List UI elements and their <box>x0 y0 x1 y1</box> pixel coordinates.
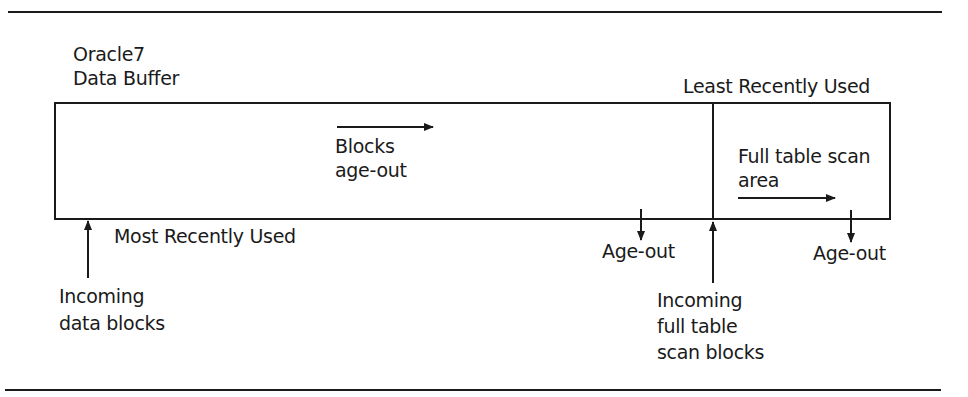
age-out-left-label: Age-out <box>602 239 675 263</box>
incoming-data-label: Incoming data blocks <box>59 283 165 337</box>
fts-area-label: Full table scan area <box>738 144 870 192</box>
blocks-age-out-label: Blocks age-out <box>335 134 407 182</box>
incoming-fts-label: Incoming full table scan blocks <box>657 287 764 365</box>
buffer-title: Oracle7 Data Buffer <box>73 42 179 90</box>
age-out-right-label: Age-out <box>813 241 886 265</box>
mru-label: Most Recently Used <box>114 224 296 248</box>
lru-label: Least Recently Used <box>683 74 870 98</box>
